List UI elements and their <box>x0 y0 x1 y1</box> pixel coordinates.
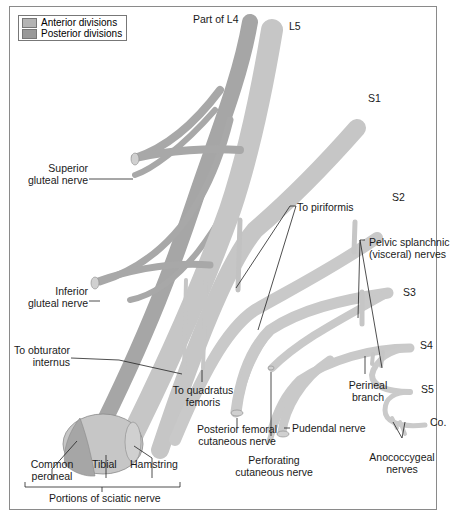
root-label-s2: S2 <box>392 191 405 203</box>
root-label-s1: S1 <box>368 92 381 104</box>
root-label-co: Co. <box>430 416 446 428</box>
posterior-swatch <box>22 29 37 39</box>
root-label-s4: S4 <box>420 339 433 351</box>
anterior-swatch <box>22 18 37 28</box>
label-common-peroneal: Common peroneal <box>27 458 77 482</box>
label-portions-of-sciatic-nerve: Portions of sciatic nerve <box>49 492 160 504</box>
root-label-l5: L5 <box>289 20 301 32</box>
label-superior-gluteal: Superior gluteal nerve <box>20 162 88 186</box>
label-inferior-gluteal: Inferior gluteal nerve <box>20 285 88 309</box>
label-perforating-cutaneous: Perforating cutaneous nerve <box>228 454 320 478</box>
legend: Anterior divisions Posterior divisions <box>18 15 127 41</box>
label-perineal-branch: Perineal branch <box>346 379 390 403</box>
label-to-piriformis: To piriformis <box>297 201 354 213</box>
label-to-obturator-internus: To obturator internus <box>10 344 70 368</box>
label-posterior-femoral-cutaneous: Posterior femoral cutaneous nerve <box>182 423 292 447</box>
legend-item-posterior: Posterior divisions <box>22 28 122 39</box>
label-tibial: Tibial <box>92 458 117 470</box>
legend-label: Anterior divisions <box>41 17 117 28</box>
label-to-quadratus-femoris: To quadratus femoris <box>166 384 240 408</box>
legend-label: Posterior divisions <box>41 28 122 39</box>
label-hamstring: Hamstring <box>130 458 178 470</box>
root-label-s3: S3 <box>403 286 416 298</box>
label-pudendal-nerve: Pudendal nerve <box>292 422 366 434</box>
legend-item-anterior: Anterior divisions <box>22 17 122 28</box>
root-label-l4: Part of L4 <box>193 13 239 25</box>
root-label-s5: S5 <box>421 383 434 395</box>
label-pelvic-splanchnic: Pelvic splanchnic (visceral) nerves <box>369 236 450 260</box>
label-anococcygeal-nerves: Anococcygeal nerves <box>362 451 442 475</box>
